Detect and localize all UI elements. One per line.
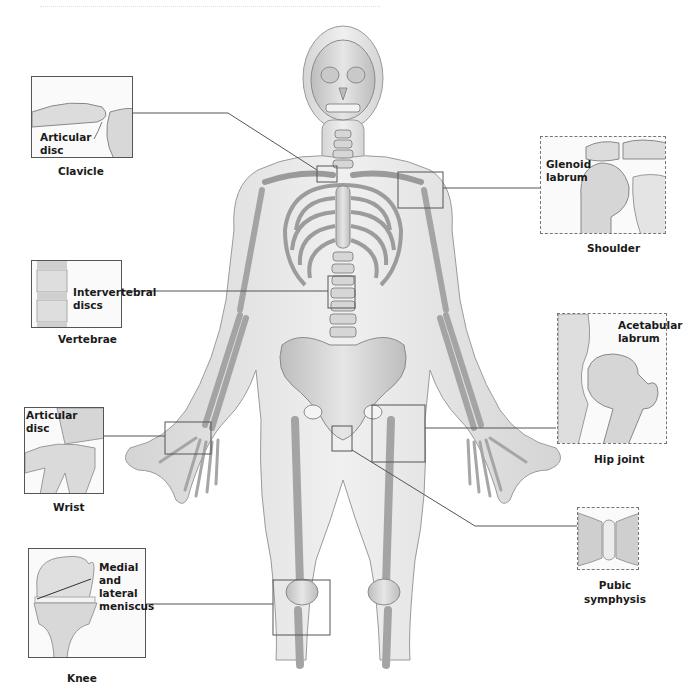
pubic-symphysis-caption: Pubic symphysis — [584, 578, 646, 606]
shoulder-caption: Shoulder — [587, 242, 640, 254]
clavicle-caption: Clavicle — [58, 165, 104, 177]
wrist-label: Articular disc — [26, 409, 78, 435]
wrist-caption: Wrist — [53, 501, 84, 513]
hip-caption: Hip joint — [594, 453, 644, 465]
skeleton-diagram: Articular disc Clavicle Glenoid labrum S… — [0, 0, 696, 691]
vertebrae-caption: Vertebrae — [58, 333, 117, 345]
inset-shoulder — [540, 136, 666, 234]
pubic-symphysis-illustration — [578, 508, 639, 570]
hip-label: Acetabular labrum — [618, 319, 682, 345]
knee-caption: Knee — [67, 672, 97, 684]
inset-pubic-symphysis — [577, 507, 639, 570]
vertebrae-label: Intervertebral discs — [73, 286, 156, 312]
shoulder-label: Glenoid labrum — [546, 158, 591, 184]
clavicle-label: Articular disc — [40, 131, 92, 157]
shoulder-joint-illustration — [541, 137, 666, 234]
knee-label: Medial and lateral meniscus — [99, 561, 154, 613]
